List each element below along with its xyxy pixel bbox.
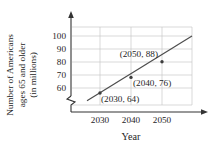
data-point-2050[interactable] xyxy=(160,60,163,63)
x-tick-2030: 2030 xyxy=(91,115,110,125)
x-tick-labels: 2030 2040 2050 xyxy=(91,115,172,125)
data-label-2040: (2040, 76) xyxy=(133,78,171,88)
population-axis xyxy=(67,11,75,112)
data-point-annotations: (2030, 64) (2040, 76) (2050, 88) xyxy=(101,49,171,104)
y-tick-70: 70 xyxy=(57,70,67,80)
data-series-line xyxy=(87,36,192,101)
data-label-2050: (2050, 88) xyxy=(120,49,158,59)
y-axis-break-zigzag xyxy=(67,96,75,112)
x-axis-title: Year xyxy=(122,131,141,142)
line-chart-canvas: 100 90 80 70 60 2030 2040 2050 Year Numb… xyxy=(0,0,212,149)
year-axis xyxy=(71,109,208,114)
trend-line xyxy=(87,36,192,101)
chart-figure: 100 90 80 70 60 2030 2040 2050 Year Numb… xyxy=(0,0,212,149)
y-axis-title: Number of Americans ages 65 and older (i… xyxy=(5,34,38,116)
y-tick-80: 80 xyxy=(57,57,67,67)
x-tick-2050: 2050 xyxy=(153,115,172,125)
x-tick-2040: 2040 xyxy=(122,115,141,125)
y-tick-90: 90 xyxy=(57,44,67,54)
y-axis-title-line-1: Number of Americans xyxy=(5,34,15,116)
data-label-2030: (2030, 64) xyxy=(101,94,139,104)
y-tick-labels: 100 90 80 70 60 xyxy=(52,31,66,93)
x-axis-arrowhead-icon xyxy=(201,109,208,114)
y-axis-title-line-3: (in millions) xyxy=(28,52,38,98)
y-axis-title-line-2: ages 65 and older xyxy=(17,43,27,108)
y-axis-arrowhead-icon xyxy=(68,11,74,18)
y-tick-60: 60 xyxy=(57,83,67,93)
y-tick-100: 100 xyxy=(52,31,66,41)
